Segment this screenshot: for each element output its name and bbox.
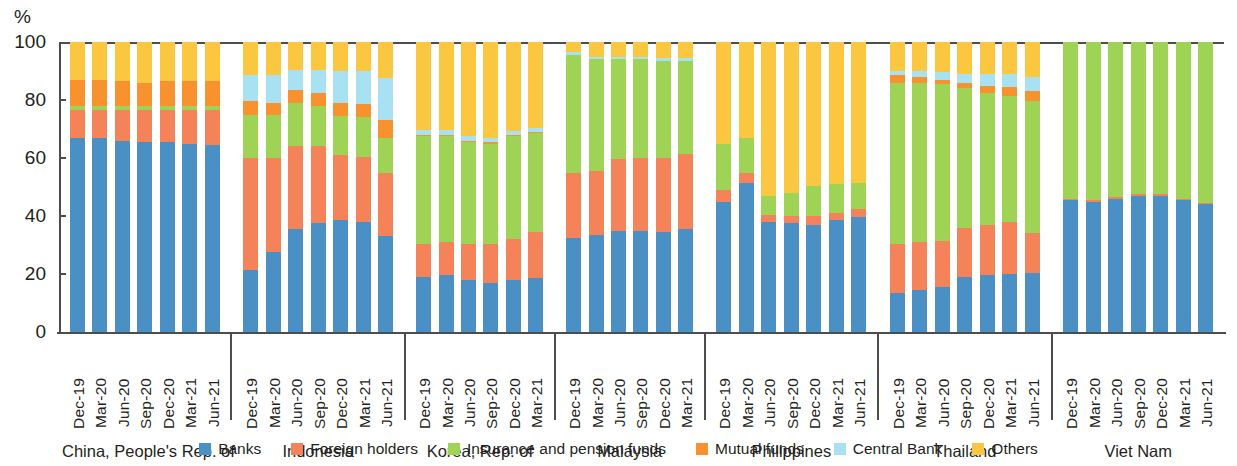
bar-segment-others [980,42,995,74]
bar-segment-central-bank [288,70,303,90]
bar-segment-others [439,42,454,130]
bar-segment-banks [935,287,950,332]
stacked-bar[interactable] [288,42,303,332]
stacked-bar[interactable] [656,42,671,332]
bar-segment-others [935,42,950,72]
stacked-bar[interactable] [739,42,754,332]
stacked-bar[interactable] [1153,42,1168,332]
stacked-bar[interactable] [333,42,348,332]
stacked-bar[interactable] [829,42,844,332]
bar-segment-central-bank [378,78,393,120]
bar-segment-central-bank [935,72,950,79]
legend-item[interactable]: Foreign holders [291,440,418,458]
stacked-bar[interactable] [912,42,927,332]
legend-item[interactable]: Insurance and pension funds [448,440,666,458]
bar-segment-banks [1108,199,1123,332]
stacked-bar[interactable] [851,42,866,332]
bar-segment-others [70,42,85,80]
y-axis-tick-label: 0 [0,321,46,343]
stacked-bar[interactable] [461,42,476,332]
y-axis-tick-label: 80 [0,89,46,111]
bar-segment-mutual-funds [980,86,995,93]
bar-segment-foreign-holders [528,232,543,278]
stacked-bar[interactable] [243,42,258,332]
stacked-bar[interactable] [1063,42,1078,332]
stacked-bar[interactable] [137,42,152,332]
stacked-bar[interactable] [506,42,521,332]
stacked-bar[interactable] [716,42,731,332]
bar-segment-foreign-holders [205,110,220,145]
bar-segment-insurance-pension [528,133,543,232]
bar-segment-others [851,42,866,183]
bar-segment-insurance-pension [1108,42,1123,197]
legend-swatch-icon [972,443,984,455]
stacked-bar[interactable] [784,42,799,332]
stacked-bar[interactable] [806,42,821,332]
bar-segment-insurance-pension [378,138,393,173]
stacked-bar[interactable] [890,42,905,332]
bar-segment-banks [205,145,220,332]
stacked-bar[interactable] [266,42,281,332]
bar-segment-others [205,42,220,81]
stacked-bar[interactable] [416,42,431,332]
bar-segment-foreign-holders [678,154,693,229]
stacked-bar[interactable] [633,42,648,332]
bar-segment-others [137,42,152,83]
stacked-bar[interactable] [528,42,543,332]
stacked-bar[interactable] [439,42,454,332]
legend-item[interactable]: Banks [199,440,261,458]
bar-segment-others [506,42,521,130]
stacked-bar[interactable] [678,42,693,332]
stacked-bar[interactable] [1176,42,1191,332]
bar-segment-others [739,42,754,138]
stacked-bar[interactable] [1025,42,1040,332]
legend-swatch-icon [199,443,211,455]
stacked-bar[interactable] [1198,42,1213,332]
stacked-bar[interactable] [980,42,995,332]
bar-segment-insurance-pension [980,93,995,225]
stacked-bar[interactable] [70,42,85,332]
legend-swatch-icon [696,443,708,455]
stacked-bar[interactable] [356,42,371,332]
bar-segment-insurance-pension [439,136,454,242]
bar-segment-banks [506,280,521,332]
y-axis: 020406080100 [0,0,46,466]
bar-segment-others [656,42,671,58]
legend-item[interactable]: Mutual funds [696,440,804,458]
legend-item[interactable]: Others [972,440,1038,458]
bar-segment-foreign-holders [288,146,303,229]
bar-segment-others [633,42,648,57]
stacked-bar[interactable] [1002,42,1017,332]
stacked-bar[interactable] [1086,42,1101,332]
bar-segment-others [716,42,731,144]
bar-segment-foreign-holders [182,110,197,143]
stacked-bar[interactable] [115,42,130,332]
bar-segment-banks [980,275,995,332]
bar-segment-banks [356,222,371,332]
stacked-bar[interactable] [160,42,175,332]
y-axis-tick-label: 20 [0,263,46,285]
stacked-bar[interactable] [92,42,107,332]
stacked-bar[interactable] [566,42,581,332]
stacked-bar[interactable] [205,42,220,332]
bar-segment-banks [1086,202,1101,333]
bar-group: Dec-19Mar-20Jun-20Sep-20Dec-20Mar-21Jun-… [882,42,1047,332]
stacked-bar[interactable] [761,42,776,332]
stacked-bar[interactable] [611,42,626,332]
stacked-bar[interactable] [935,42,950,332]
legend-item[interactable]: Central Bank [834,440,943,458]
stacked-bar[interactable] [1108,42,1123,332]
stacked-bar[interactable] [378,42,393,332]
stacked-bar[interactable] [589,42,604,332]
stacked-bar[interactable] [311,42,326,332]
bar-segment-insurance-pension [1002,96,1017,222]
stacked-bar[interactable] [182,42,197,332]
bar-segment-central-bank [333,71,348,103]
bar-segment-insurance-pension [1176,42,1191,199]
stacked-bar[interactable] [957,42,972,332]
bar-segment-foreign-holders [92,110,107,138]
stacked-bar[interactable] [1131,42,1146,332]
bar-segment-insurance-pension [633,59,648,158]
bar-segment-mutual-funds [1002,87,1017,96]
stacked-bar[interactable] [483,42,498,332]
